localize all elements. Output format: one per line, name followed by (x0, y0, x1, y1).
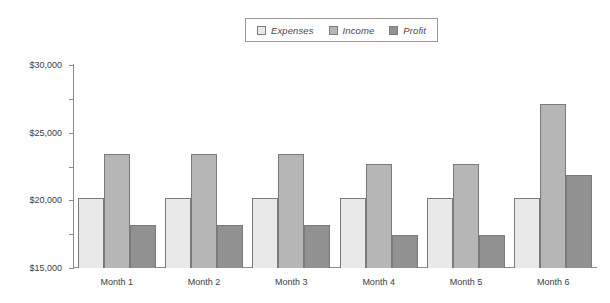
y-axis-label: $15,000 (29, 263, 62, 273)
bar-profit-month-3[interactable] (304, 225, 330, 268)
y-axis-label: $30,000 (29, 60, 62, 70)
legend-label-expenses: Expenses (271, 25, 314, 36)
bar-profit-month-2[interactable] (217, 225, 243, 268)
x-axis-label: Month 4 (362, 277, 395, 287)
bar-expenses-month-5[interactable] (427, 198, 453, 268)
legend-swatch-profit (389, 26, 398, 35)
bar-expenses-month-2[interactable] (165, 198, 191, 268)
legend-swatch-expenses (257, 26, 266, 35)
y-axis-tick: $0 (69, 268, 73, 269)
bar-group: Month 3 (248, 65, 335, 268)
x-axis-label: Month 6 (537, 277, 570, 287)
bar-group: Month 5 (422, 65, 509, 268)
bar-profit-month-4[interactable] (392, 235, 418, 268)
bar-income-month-3[interactable] (278, 154, 304, 268)
bar-expenses-month-3[interactable] (252, 198, 278, 268)
bar-income-month-4[interactable] (366, 164, 392, 268)
bar-group: Month 1 (73, 65, 160, 268)
bar-group: Month 2 (160, 65, 247, 268)
bar-income-month-6[interactable] (540, 104, 566, 268)
bar-group: Month 6 (510, 65, 597, 268)
bar-income-month-2[interactable] (191, 154, 217, 268)
y-axis-label: $20,000 (29, 195, 62, 205)
legend-item-profit: Profit (389, 25, 426, 36)
x-axis-label: Month 3 (275, 277, 308, 287)
bar-group: Month 4 (335, 65, 422, 268)
legend-label-income: Income (343, 25, 375, 36)
x-axis-label: Month 1 (100, 277, 133, 287)
legend-swatch-income (329, 26, 338, 35)
bar-expenses-month-4[interactable] (340, 198, 366, 268)
x-axis-label: Month 2 (188, 277, 221, 287)
bar-expenses-month-1[interactable] (78, 198, 104, 268)
legend-item-expenses: Expenses (257, 25, 314, 36)
bar-profit-month-5[interactable] (479, 235, 505, 268)
x-axis-label: Month 5 (450, 277, 483, 287)
chart-plot-area: $30,000$25,000$20,000$15,000$10,000$5,00… (73, 65, 597, 268)
chart-legend: Expenses Income Profit (245, 18, 438, 42)
legend-label-profit: Profit (403, 25, 426, 36)
bar-groups: Month 1Month 2Month 3Month 4Month 5Month… (73, 65, 597, 268)
bar-profit-month-6[interactable] (566, 175, 592, 268)
y-axis-label: $25,000 (29, 128, 62, 138)
bar-income-month-5[interactable] (453, 164, 479, 268)
bar-profit-month-1[interactable] (130, 225, 156, 268)
bar-expenses-month-6[interactable] (514, 198, 540, 268)
bar-income-month-1[interactable] (104, 154, 130, 268)
legend-item-income: Income (329, 25, 375, 36)
